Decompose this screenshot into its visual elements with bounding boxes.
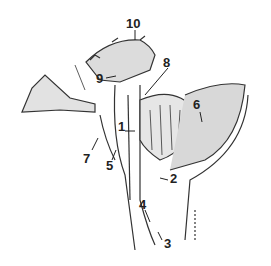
skull-base	[22, 75, 95, 112]
anatomical-diagram	[0, 0, 271, 266]
label-3: 3	[164, 237, 171, 250]
label-4: 4	[139, 198, 146, 211]
occipital-bone	[170, 84, 245, 170]
label-1: 1	[118, 120, 125, 133]
label-5: 5	[106, 159, 113, 172]
label-2: 2	[170, 172, 177, 185]
label-9: 9	[96, 72, 103, 85]
label-6: 6	[193, 98, 200, 111]
label-10: 10	[126, 17, 140, 30]
label-7: 7	[83, 152, 90, 165]
label-8: 8	[163, 56, 170, 69]
